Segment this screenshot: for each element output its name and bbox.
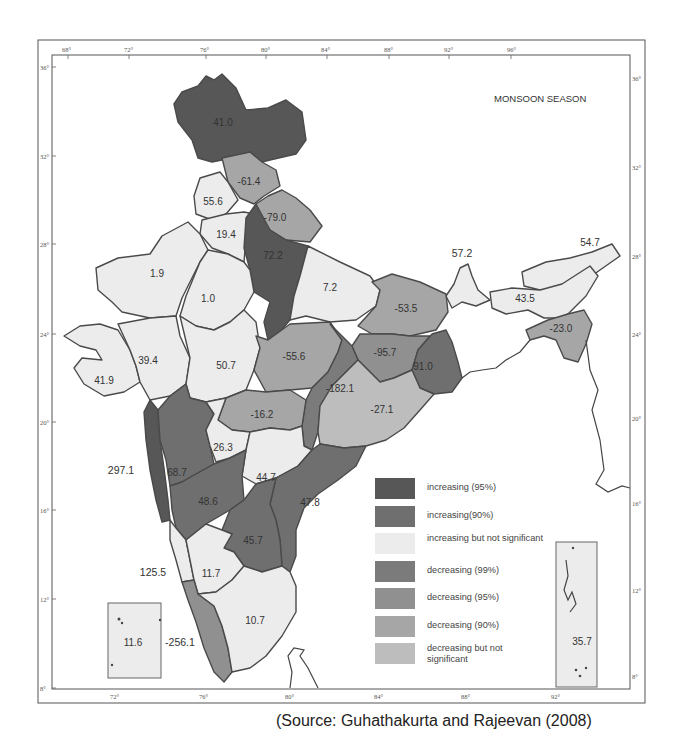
svg-text:28°: 28° bbox=[40, 241, 50, 248]
svg-text:57.2: 57.2 bbox=[452, 247, 473, 259]
svg-text:44.7: 44.7 bbox=[256, 472, 276, 483]
region-nmmt bbox=[526, 310, 592, 362]
svg-text:-95.7: -95.7 bbox=[374, 347, 397, 358]
svg-text:84°: 84° bbox=[321, 46, 331, 53]
svg-text:26.3: 26.3 bbox=[213, 442, 233, 453]
svg-text:54.7: 54.7 bbox=[580, 237, 600, 248]
svg-text:-27.1: -27.1 bbox=[371, 404, 394, 415]
legend-swatch bbox=[375, 478, 415, 499]
svg-text:8°: 8° bbox=[632, 673, 638, 680]
legend-swatch bbox=[375, 616, 415, 637]
svg-text:28°: 28° bbox=[632, 253, 642, 260]
svg-text:-53.5: -53.5 bbox=[395, 303, 418, 314]
legend-label: decreasing but not significant bbox=[427, 643, 537, 665]
legend-swatch bbox=[375, 506, 415, 527]
legend-label: increasing (95%) bbox=[427, 478, 496, 493]
svg-text:24°: 24° bbox=[40, 331, 50, 338]
svg-text:11.7: 11.7 bbox=[202, 568, 221, 579]
svg-text:36°: 36° bbox=[632, 75, 642, 82]
sri-lanka-outline bbox=[288, 648, 318, 688]
svg-text:35.7: 35.7 bbox=[572, 636, 592, 647]
source-caption: (Source: Guhathakurta and Rajeevan (2008… bbox=[276, 712, 592, 730]
svg-text:88°: 88° bbox=[461, 693, 471, 700]
legend-label: increasing but not significant bbox=[427, 533, 543, 544]
svg-text:-61.4: -61.4 bbox=[238, 176, 261, 187]
map-title: MONSOON SEASON bbox=[494, 93, 587, 104]
legend-item-decreasing-95: decreasing (95%) bbox=[375, 588, 545, 616]
svg-text:47.8: 47.8 bbox=[300, 497, 320, 508]
svg-text:76°: 76° bbox=[200, 46, 210, 53]
legend-label: increasing(90%) bbox=[427, 506, 493, 521]
svg-text:32°: 32° bbox=[40, 153, 50, 160]
svg-text:12°: 12° bbox=[40, 596, 50, 603]
longitude-ticks-bottom: 72° 76° 80° 84° 88° 92° bbox=[110, 693, 561, 700]
svg-text:92°: 92° bbox=[551, 693, 561, 700]
legend-swatch bbox=[375, 588, 415, 609]
svg-text:50.7: 50.7 bbox=[216, 360, 236, 371]
svg-text:11.6: 11.6 bbox=[124, 637, 143, 648]
latitude-ticks-left: 36° 32° 28° 24° 20° 16° 12° 8° bbox=[40, 64, 50, 692]
svg-text:72°: 72° bbox=[124, 46, 134, 53]
myanmar-border bbox=[586, 340, 630, 492]
svg-text:24°: 24° bbox=[632, 331, 642, 338]
legend-label: decreasing (90%) bbox=[427, 616, 499, 631]
legend-swatch bbox=[375, 533, 415, 554]
svg-text:36°: 36° bbox=[40, 64, 50, 71]
svg-text:125.5: 125.5 bbox=[140, 566, 166, 578]
svg-text:-79.0: -79.0 bbox=[264, 212, 287, 223]
latitude-ticks-right: 36° 32° 28° 24° 20° 16° 12° 8° bbox=[632, 75, 642, 680]
svg-text:20°: 20° bbox=[40, 419, 50, 426]
svg-text:19.4: 19.4 bbox=[216, 229, 236, 240]
legend-label: decreasing (99%) bbox=[427, 561, 499, 576]
india-rainfall-trend-map: 68° 72° 76° 80° 84° 88° 92° 96° 72° 76° … bbox=[0, 0, 677, 747]
legend-item-decreasing-99: decreasing (99%) bbox=[375, 561, 545, 589]
svg-text:1.0: 1.0 bbox=[201, 293, 215, 304]
longitude-ticks-top: 68° 72° 76° 80° 84° 88° 92° 96° bbox=[62, 46, 517, 53]
svg-text:16°: 16° bbox=[40, 507, 50, 514]
svg-text:32°: 32° bbox=[632, 164, 642, 171]
svg-text:68.7: 68.7 bbox=[167, 467, 187, 478]
svg-text:41.9: 41.9 bbox=[94, 375, 114, 386]
legend-item-increasing-90: increasing(90%) bbox=[375, 506, 545, 534]
svg-text:39.4: 39.4 bbox=[138, 355, 158, 366]
svg-text:-16.2: -16.2 bbox=[251, 409, 274, 420]
region-jammu-kashmir bbox=[174, 74, 306, 162]
svg-text:91.0: 91.0 bbox=[413, 361, 433, 372]
legend-item-increasing-ns: increasing but not significant bbox=[375, 533, 545, 561]
svg-text:1.9: 1.9 bbox=[150, 268, 164, 279]
svg-text:8°: 8° bbox=[40, 685, 46, 692]
legend-label: decreasing (95%) bbox=[427, 588, 499, 603]
svg-text:-23.0: -23.0 bbox=[550, 323, 573, 334]
svg-text:10.7: 10.7 bbox=[245, 615, 265, 626]
legend-item-decreasing-ns: decreasing but not significant bbox=[375, 643, 545, 671]
svg-text:80°: 80° bbox=[285, 693, 295, 700]
legend: increasing (95%) increasing(90%) increas… bbox=[375, 478, 545, 671]
legend-item-increasing-95: increasing (95%) bbox=[375, 478, 545, 506]
svg-text:55.6: 55.6 bbox=[203, 196, 223, 207]
legend-swatch bbox=[375, 643, 415, 664]
regions bbox=[64, 74, 630, 688]
svg-text:88°: 88° bbox=[384, 46, 394, 53]
legend-item-decreasing-90: decreasing (90%) bbox=[375, 616, 545, 644]
svg-text:-256.1: -256.1 bbox=[165, 636, 195, 648]
bangladesh-border bbox=[462, 340, 530, 378]
legend-swatch bbox=[375, 561, 415, 582]
svg-text:12°: 12° bbox=[632, 587, 642, 594]
svg-text:297.1: 297.1 bbox=[108, 464, 134, 476]
svg-text:68°: 68° bbox=[62, 46, 72, 53]
svg-text:80°: 80° bbox=[261, 46, 271, 53]
svg-text:92°: 92° bbox=[444, 46, 454, 53]
svg-text:76°: 76° bbox=[199, 693, 209, 700]
svg-text:45.7: 45.7 bbox=[243, 535, 263, 546]
svg-text:72.2: 72.2 bbox=[263, 250, 283, 261]
svg-text:7.2: 7.2 bbox=[323, 282, 337, 293]
svg-text:96°: 96° bbox=[507, 46, 517, 53]
svg-text:72°: 72° bbox=[110, 693, 120, 700]
svg-text:-182.1: -182.1 bbox=[326, 383, 355, 394]
svg-text:41.0: 41.0 bbox=[213, 117, 233, 128]
svg-text:-55.6: -55.6 bbox=[283, 351, 306, 362]
svg-text:84°: 84° bbox=[374, 693, 384, 700]
svg-text:16°: 16° bbox=[632, 500, 642, 507]
svg-text:20°: 20° bbox=[632, 415, 642, 422]
region-sub-himalayan-wb bbox=[446, 264, 490, 308]
